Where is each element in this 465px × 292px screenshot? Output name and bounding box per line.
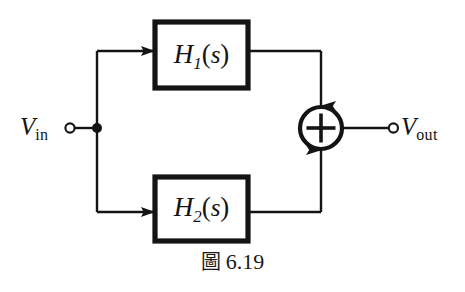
output-label: Vout [401, 114, 438, 139]
block-h2-label: H2(s) [155, 194, 248, 221]
output-symbol: V [401, 113, 416, 140]
output-subscript: out [416, 126, 437, 143]
output-terminal-circle [389, 123, 398, 132]
input-terminal-circle [65, 123, 74, 132]
h2-arg-var: s [211, 194, 221, 221]
h1-arg-var: s [211, 41, 221, 68]
input-label: Vin [20, 114, 48, 139]
caption-marker: 圖 [201, 250, 221, 274]
figure-block-diagram: Vin Vout H1(s) H2(s) 圖6.19 [0, 0, 465, 292]
caption-number: 6.19 [226, 249, 265, 274]
input-symbol: V [20, 113, 35, 140]
h1-paren-close: ) [220, 39, 229, 69]
h2-paren-open: ( [202, 192, 211, 222]
h2-paren-close: ) [220, 192, 229, 222]
h1-subscript: 1 [193, 54, 202, 73]
h1-symbol: H [174, 39, 194, 69]
block-h1-label: H1(s) [155, 41, 248, 68]
figure-caption: 圖6.19 [0, 250, 465, 274]
input-subscript: in [35, 126, 48, 143]
h1-paren-open: ( [202, 39, 211, 69]
h2-subscript: 2 [193, 207, 202, 226]
h2-symbol: H [174, 192, 194, 222]
